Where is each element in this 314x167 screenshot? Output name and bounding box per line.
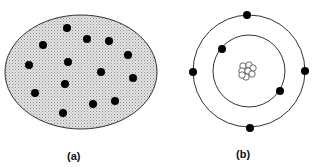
electron	[218, 45, 226, 53]
electron	[243, 11, 251, 19]
panel-a-diagram	[5, 15, 157, 129]
particle-dot	[124, 51, 132, 59]
nucleon	[239, 72, 245, 78]
shaded-ellipse	[5, 15, 157, 129]
particle-dot	[111, 97, 119, 105]
panel-b-diagram	[189, 11, 309, 132]
particle-dot	[64, 58, 72, 66]
particle-dot	[129, 74, 137, 82]
electron	[276, 87, 284, 95]
particle-dot	[61, 80, 69, 88]
particle-dot	[39, 41, 47, 49]
particle-dot	[63, 24, 71, 32]
electron	[301, 67, 309, 75]
electron	[246, 124, 254, 132]
panel-a-label: (a)	[67, 150, 80, 162]
nucleus	[239, 62, 256, 80]
particle-dot	[59, 109, 67, 117]
particle-dot	[89, 100, 97, 108]
electron	[189, 68, 197, 76]
particle-dot	[83, 35, 91, 43]
particle-dot	[97, 68, 105, 76]
nucleon	[249, 71, 255, 77]
figure-canvas	[0, 0, 314, 167]
particle-dot	[105, 37, 113, 45]
panel-b-label: (b)	[236, 148, 250, 160]
particle-dot	[25, 61, 33, 69]
particle-dot	[31, 89, 39, 97]
